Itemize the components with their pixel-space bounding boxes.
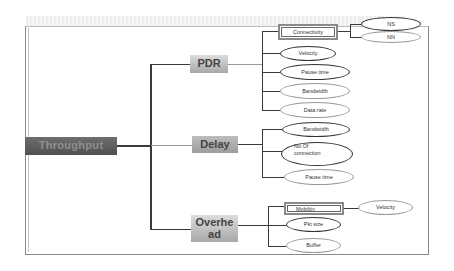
connector-pdr-vertical bbox=[262, 31, 263, 111]
connector-connectivity bbox=[262, 31, 279, 32]
node-connectivity: Connectivity bbox=[278, 24, 338, 40]
connector-mobility-velocity bbox=[344, 208, 359, 209]
node-delay-label: Delay bbox=[200, 139, 229, 151]
connector-buffer bbox=[268, 246, 286, 247]
node-pkt-size-label: Pkt size bbox=[304, 221, 323, 228]
node-mobility-label: Mobility bbox=[296, 206, 315, 212]
node-no-of-connection: No Of connection bbox=[281, 142, 353, 166]
node-buffer: Buffer bbox=[286, 238, 341, 253]
connector-delay-bandwidth bbox=[262, 129, 282, 130]
node-bandwidth-label: Bandwidth bbox=[302, 88, 328, 95]
node-ns: NS bbox=[361, 17, 421, 31]
node-nn-label: NN bbox=[387, 34, 395, 41]
connector-no-of-connection bbox=[262, 151, 282, 152]
node-overhead-label-line2: ad bbox=[208, 229, 221, 241]
frame-top-shadow bbox=[26, 16, 404, 26]
node-ns-label: NS bbox=[387, 21, 395, 28]
node-overhead: Overhe ad bbox=[191, 215, 238, 242]
node-mobility: Mobility bbox=[284, 202, 344, 215]
node-throughput: Throughput bbox=[25, 137, 117, 155]
node-delay-bandwidth: Bandwidth bbox=[282, 122, 350, 137]
node-delay-pause-time-label: Pause time bbox=[305, 174, 333, 181]
connector-root-trunk bbox=[117, 145, 151, 147]
connector-pdr-branch bbox=[228, 64, 263, 65]
connector-overhead-branch bbox=[238, 225, 269, 226]
connector-delay-vertical bbox=[262, 129, 263, 178]
connector-to-delay bbox=[151, 145, 192, 146]
node-pdr-label: PDR bbox=[197, 58, 220, 70]
connector-data-rate bbox=[262, 110, 280, 111]
node-data-rate-label: Data rate bbox=[304, 107, 327, 114]
connector-trunk-vertical bbox=[150, 64, 152, 230]
node-buffer-label: Buffer bbox=[306, 242, 321, 249]
connector-delay-pause-time bbox=[262, 177, 284, 178]
node-pause-time-label: Pause time bbox=[301, 69, 329, 76]
node-bandwidth: Bandwidth bbox=[280, 83, 350, 99]
node-data-rate: Data rate bbox=[280, 102, 350, 118]
connector-velocity bbox=[262, 53, 280, 54]
node-pause-time: Pause time bbox=[280, 64, 350, 80]
node-nn: NN bbox=[361, 31, 421, 43]
connector-connectivity-split bbox=[350, 24, 351, 38]
node-overhead-label-line1: Overhe bbox=[196, 217, 234, 229]
node-no-of-connection-line2: connection bbox=[294, 150, 321, 157]
node-no-of-connection-line1: No Of bbox=[294, 143, 308, 150]
node-mobility-velocity-label: Velocity bbox=[376, 204, 395, 211]
node-connectivity-label: Connectivity bbox=[293, 29, 323, 35]
node-pkt-size: Pkt size bbox=[286, 217, 341, 232]
connector-pause-time bbox=[262, 72, 280, 73]
connector-to-overhead bbox=[150, 229, 191, 230]
node-velocity: Velocity bbox=[280, 46, 336, 61]
connector-overhead-vertical bbox=[268, 206, 269, 247]
node-delay-bandwidth-label: Bandwidth bbox=[303, 126, 329, 133]
connector-pkt-size bbox=[268, 225, 286, 226]
connector-to-pdr bbox=[150, 64, 191, 65]
node-delay: Delay bbox=[192, 136, 238, 153]
connector-mobility bbox=[268, 206, 285, 207]
node-pdr: PDR bbox=[190, 55, 228, 73]
connector-delay-branch bbox=[238, 144, 263, 145]
connector-bandwidth bbox=[262, 91, 280, 92]
node-mobility-velocity: Velocity bbox=[358, 200, 413, 215]
node-delay-pause-time: Pause time bbox=[284, 169, 354, 185]
node-throughput-label: Throughput bbox=[39, 140, 104, 152]
node-velocity-label: Velocity bbox=[299, 50, 318, 57]
connector-connectivity-out bbox=[338, 31, 350, 32]
